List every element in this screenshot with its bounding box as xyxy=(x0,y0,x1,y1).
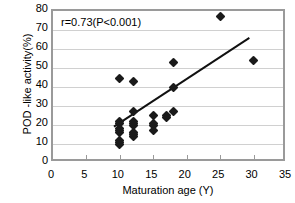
x-tick-label: 25 xyxy=(203,169,233,180)
x-tick-label: 30 xyxy=(237,169,267,180)
x-tick-label: 0 xyxy=(36,169,66,180)
data-point xyxy=(215,12,225,22)
x-tick-label: 15 xyxy=(136,169,166,180)
x-tick-label: 35 xyxy=(270,169,295,180)
x-tick-label: 20 xyxy=(170,169,200,180)
x-axis-label: Maturation age (Y) xyxy=(51,184,285,196)
plot-area: r=0.73(P<0.001) xyxy=(51,9,285,161)
data-point xyxy=(115,73,125,83)
data-point xyxy=(168,57,178,67)
x-tick-label: 10 xyxy=(103,169,133,180)
data-points xyxy=(53,11,283,159)
data-point xyxy=(148,111,158,121)
data-point xyxy=(128,107,138,117)
x-tick-label: 5 xyxy=(69,169,99,180)
data-point xyxy=(249,55,259,65)
data-point xyxy=(168,82,178,92)
data-point xyxy=(128,76,138,86)
scatter-chart: POD -like activity(%) 01020304050607080 … xyxy=(0,0,295,203)
correlation-annotation: r=0.73(P<0.001) xyxy=(61,16,141,28)
